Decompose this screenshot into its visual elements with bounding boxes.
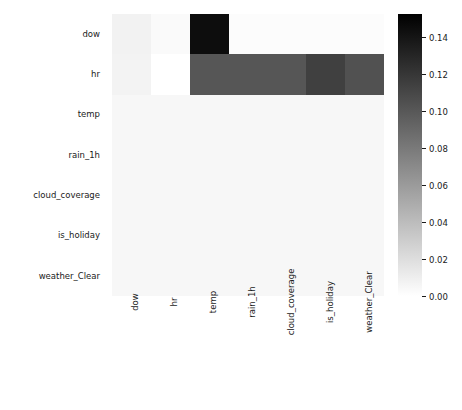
heatmap-cell <box>267 135 306 175</box>
heatmap-cell <box>345 135 384 175</box>
heatmap-cell <box>306 54 345 94</box>
x-axis-tick-labels: dowhrtemprain_1hcloud_coverageis_holiday… <box>112 298 384 406</box>
colorbar-tick-text: 0.14 <box>429 33 448 42</box>
x-tick-label-weather_Clear: weather_Clear <box>365 271 374 332</box>
colorbar-tick-text: 0.08 <box>429 144 448 153</box>
y-tick-label-cloud_coverage: cloud_coverage <box>0 175 106 215</box>
y-tick-label-weather_Clear: weather_Clear <box>0 256 106 296</box>
heatmap-cell <box>151 135 190 175</box>
heatmap-cell <box>306 175 345 215</box>
x-tick-label-cloud_coverage: cloud_coverage <box>287 269 296 336</box>
heatmap-cell <box>345 95 384 135</box>
heatmap-cell <box>229 14 268 54</box>
x-tick-label-hr: hr <box>170 298 179 307</box>
colorbar-tick-mark <box>422 222 426 223</box>
heatmap-cell <box>267 215 306 255</box>
heatmap-cell <box>345 215 384 255</box>
heatmap-cell <box>267 175 306 215</box>
heatmap-cell <box>190 175 229 215</box>
heatmap-cell <box>345 175 384 215</box>
colorbar-tick-mark <box>422 185 426 186</box>
colorbar-tick-text: 0.12 <box>429 70 448 79</box>
colorbar-tick-text: 0.04 <box>429 218 448 227</box>
heatmap-figure: dowhrtemprain_1hcloud_coverageis_holiday… <box>0 0 462 410</box>
heatmap-cell <box>306 95 345 135</box>
x-tick-label-dow: dow <box>131 293 140 311</box>
heatmap-cell <box>151 256 190 296</box>
heatmap-cell <box>112 175 151 215</box>
heatmap-cell <box>306 215 345 255</box>
heatmap-cell <box>112 256 151 296</box>
heatmap-grid <box>112 14 384 296</box>
x-tick-slot: weather_Clear <box>345 298 384 406</box>
heatmap-cell <box>306 135 345 175</box>
heatmap-cell <box>345 54 384 94</box>
heatmap-cell <box>229 54 268 94</box>
heatmap-cell <box>112 54 151 94</box>
heatmap-cell <box>151 215 190 255</box>
colorbar-tick-mark <box>422 111 426 112</box>
heatmap-cell <box>190 95 229 135</box>
x-tick-slot: cloud_coverage <box>267 298 306 406</box>
heatmap-plot-area <box>112 14 384 296</box>
y-axis-tick-labels: dowhrtemprain_1hcloud_coverageis_holiday… <box>0 14 106 296</box>
colorbar-tick-labels: 0.140.120.100.080.060.040.020.00 <box>398 14 462 296</box>
heatmap-cell <box>306 14 345 54</box>
colorbar-tick-mark <box>422 74 426 75</box>
heatmap-cell <box>229 215 268 255</box>
x-tick-slot: is_holiday <box>306 298 345 406</box>
colorbar-tick-text: 0.10 <box>429 107 448 116</box>
heatmap-cell <box>229 95 268 135</box>
colorbar-tick-mark <box>422 37 426 38</box>
heatmap-cell <box>112 135 151 175</box>
x-tick-slot: rain_1h <box>229 298 268 406</box>
heatmap-cell <box>151 175 190 215</box>
colorbar-tick-mark <box>422 148 426 149</box>
heatmap-cell <box>151 54 190 94</box>
colorbar-tick-text: 0.02 <box>429 255 448 264</box>
x-tick-slot: temp <box>190 298 229 406</box>
heatmap-cell <box>151 95 190 135</box>
heatmap-cell <box>190 14 229 54</box>
heatmap-cell <box>112 95 151 135</box>
x-tick-slot: dow <box>112 298 151 406</box>
heatmap-cell <box>112 14 151 54</box>
y-tick-label-hr: hr <box>0 54 106 94</box>
colorbar-tick-mark <box>422 296 426 297</box>
heatmap-cell <box>190 54 229 94</box>
x-tick-slot: hr <box>151 298 190 406</box>
y-tick-label-rain_1h: rain_1h <box>0 135 106 175</box>
heatmap-cell <box>112 215 151 255</box>
heatmap-cell <box>190 135 229 175</box>
x-tick-label-is_holiday: is_holiday <box>326 281 335 323</box>
heatmap-cell <box>345 14 384 54</box>
heatmap-cell <box>229 135 268 175</box>
heatmap-cell <box>267 95 306 135</box>
heatmap-cell <box>267 14 306 54</box>
y-tick-label-dow: dow <box>0 14 106 54</box>
heatmap-cell <box>151 14 190 54</box>
x-tick-label-temp: temp <box>209 291 218 313</box>
heatmap-cell <box>267 54 306 94</box>
colorbar-tick-mark <box>422 259 426 260</box>
x-tick-label-rain_1h: rain_1h <box>248 286 257 318</box>
colorbar-tick-text: 0.00 <box>429 292 448 301</box>
y-tick-label-is_holiday: is_holiday <box>0 215 106 255</box>
heatmap-cell <box>229 175 268 215</box>
y-tick-label-temp: temp <box>0 95 106 135</box>
colorbar-tick-text: 0.06 <box>429 181 448 190</box>
heatmap-cell <box>190 215 229 255</box>
